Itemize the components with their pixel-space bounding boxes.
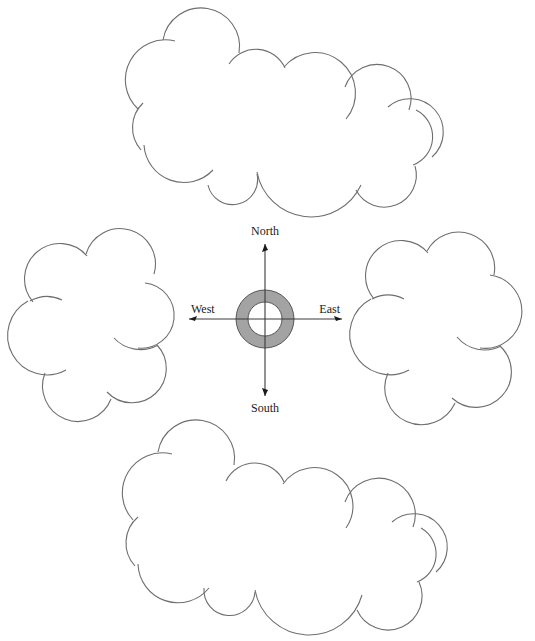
south-arrow-icon	[262, 388, 268, 396]
cloud-right	[350, 232, 522, 425]
east-label: East	[319, 302, 340, 316]
north-label: North	[251, 224, 279, 238]
north-arrow-icon	[262, 244, 268, 252]
diagram-canvas: North South West East	[0, 0, 535, 641]
cloud-bottom	[122, 420, 447, 635]
cloud-left	[8, 229, 175, 422]
west-label: West	[191, 302, 215, 316]
south-label: South	[251, 401, 279, 415]
compass-cloud-diagram: North South West East	[0, 0, 535, 641]
cloud-top	[125, 8, 443, 217]
compass: North South West East	[189, 224, 342, 415]
